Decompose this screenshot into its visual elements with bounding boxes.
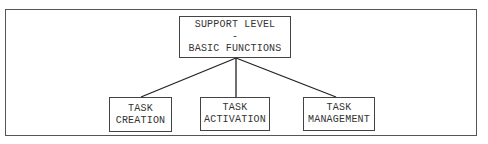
root-line-3: BASIC FUNCTIONS — [188, 43, 281, 55]
node-line-2: CREATION — [116, 115, 166, 127]
node-task-management: TASK MANAGEMENT — [303, 97, 375, 131]
node-line-2: ACTIVATION — [204, 114, 266, 126]
root-line-1: SUPPORT LEVEL — [195, 19, 276, 31]
node-line-2: MANAGEMENT — [308, 114, 370, 126]
node-task-activation: TASK ACTIVATION — [200, 97, 270, 131]
node-line-1: TASK — [327, 102, 352, 114]
node-line-1: TASK — [223, 102, 248, 114]
node-task-creation: TASK CREATION — [109, 97, 172, 132]
root-line-2: - — [232, 31, 238, 43]
root-node-support-level: SUPPORT LEVEL - BASIC FUNCTIONS — [179, 16, 291, 58]
node-line-1: TASK — [128, 103, 153, 115]
